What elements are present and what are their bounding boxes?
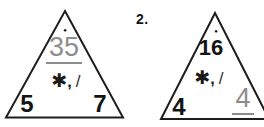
answer-field-top[interactable]: 35 — [37, 34, 91, 64]
answer-field-bottom-right[interactable]: 4 — [224, 85, 262, 115]
corner-number-bottom-left: 4 — [167, 95, 191, 119]
corner-number-top: 16 — [191, 37, 231, 59]
divide-symbol: / — [219, 69, 224, 88]
multiply-symbol: ✱ — [194, 67, 210, 88]
answer-value: 4 — [232, 85, 253, 115]
operation-symbols: ✱,/ — [40, 69, 92, 92]
answer-value: 35 — [46, 34, 82, 64]
divide-symbol: / — [76, 72, 81, 91]
comma-separator: , — [210, 70, 214, 87]
corner-number-bottom-left: 5 — [15, 92, 39, 116]
fact-triangle-worksheet: 2. ● 35 ✱,/ 5 7 ● 16 ✱,/ 4 4 — [0, 0, 264, 127]
multiply-symbol: ✱ — [51, 70, 67, 91]
corner-number-bottom-right: 7 — [88, 92, 112, 116]
problem-number-label: 2. — [136, 11, 149, 27]
apex-dot-icon: ● — [212, 27, 220, 35]
comma-separator: , — [67, 73, 71, 90]
